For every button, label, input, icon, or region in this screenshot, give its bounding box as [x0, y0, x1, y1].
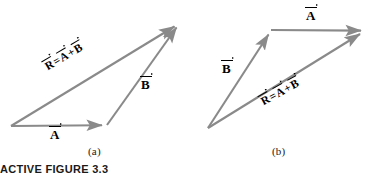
panel-a-vector-b-label: B — [141, 78, 150, 91]
panel-b-vector-a-label: A — [306, 9, 315, 22]
vector-symbol-a: A — [306, 9, 315, 22]
panel-a-caption: (a) — [88, 145, 101, 157]
panel-a-vector-a-label: A — [50, 128, 59, 141]
vector-addition-figure: R=A+B B A (a) A B R=A+B (b) ACTIVE FIGUR… — [0, 0, 380, 175]
panel-b-vector-b-label: B — [222, 62, 231, 75]
panel-b-caption: (b) — [272, 145, 285, 157]
vector-symbol-b: B — [141, 78, 150, 91]
figure-title: ACTIVE FIGURE 3.3 — [0, 163, 108, 175]
vector-symbol-a: A — [50, 128, 59, 141]
vector-symbol-b: B — [222, 62, 231, 75]
